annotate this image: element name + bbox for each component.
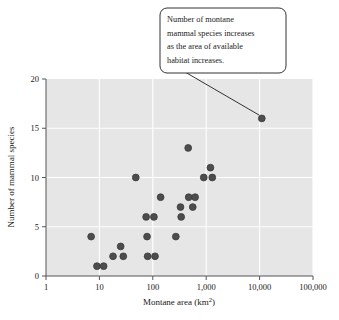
callout-line: Number of montane	[167, 15, 234, 24]
x-tick-label: 10	[95, 282, 104, 292]
data-point	[144, 253, 151, 260]
y-tick-label: 15	[31, 123, 40, 133]
data-point	[157, 194, 164, 201]
data-point	[132, 174, 139, 181]
y-tick-label: 20	[31, 74, 40, 84]
data-point	[189, 204, 196, 211]
data-point	[117, 243, 124, 250]
data-point	[185, 145, 192, 152]
data-point	[120, 253, 127, 260]
data-point	[151, 214, 158, 221]
data-point	[178, 214, 185, 221]
data-point	[143, 214, 150, 221]
data-point	[152, 253, 159, 260]
callout-line: mammal species increases	[167, 29, 255, 38]
y-tick-label: 10	[31, 173, 40, 183]
data-point	[185, 194, 192, 201]
data-point	[200, 174, 207, 181]
data-point	[110, 253, 117, 260]
x-axis-title: Montane area (km2)	[143, 296, 215, 307]
callout-line: as the area of available	[167, 42, 243, 51]
callout-line: habitat increases.	[167, 56, 224, 65]
y-axis-title: Number of mammal species	[6, 126, 16, 228]
data-point	[258, 115, 265, 122]
data-point	[88, 233, 95, 240]
figure-container: 1101001,00010,000100,000 05101520 Montan…	[0, 0, 339, 320]
y-tick-label: 0	[35, 271, 39, 281]
data-point	[209, 174, 216, 181]
scatter-chart: 1101001,00010,000100,000 05101520 Montan…	[0, 0, 339, 320]
x-tick-label: 100,000	[299, 282, 327, 292]
data-point	[192, 194, 199, 201]
y-tick-label: 5	[35, 222, 39, 232]
x-tick-label: 1,000	[197, 282, 216, 292]
data-point	[144, 233, 151, 240]
data-point	[172, 233, 179, 240]
data-point	[207, 164, 214, 171]
data-point	[177, 204, 184, 211]
data-point	[94, 263, 101, 270]
x-tick-label: 10,000	[248, 282, 271, 292]
x-tick-label: 1	[44, 282, 48, 292]
x-tick-label: 100	[146, 282, 159, 292]
data-point	[100, 263, 107, 270]
